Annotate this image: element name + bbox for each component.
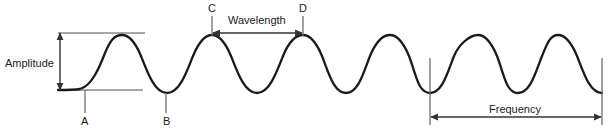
amplitude-label: Amplitude	[5, 58, 54, 69]
point-leader-lines	[85, 16, 303, 113]
waveform-path	[58, 35, 602, 93]
wave-diagram: Amplitude Wavelength Frequency A B C D	[0, 0, 614, 133]
point-d-label: D	[299, 3, 307, 14]
frequency-label: Frequency	[489, 104, 541, 115]
point-a-label: A	[81, 116, 88, 127]
point-b-label: B	[163, 116, 170, 127]
point-c-label: C	[208, 3, 216, 14]
wavelength-label: Wavelength	[228, 15, 286, 26]
